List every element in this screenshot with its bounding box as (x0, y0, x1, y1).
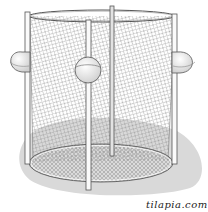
figure-caption: tilapia.com (146, 199, 208, 210)
float-center (75, 57, 101, 83)
bottom-ring (29, 144, 173, 182)
net-body (30, 16, 175, 162)
float-right (172, 52, 192, 73)
float-left (11, 52, 30, 72)
net-cage-illustration (0, 0, 208, 212)
